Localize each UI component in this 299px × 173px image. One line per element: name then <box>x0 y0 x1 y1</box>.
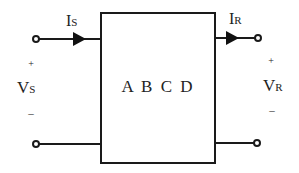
output-voltage-label: VR <box>263 76 283 95</box>
two-port-network-diagram: A B C D IS + VS – IR + VR – <box>0 0 299 173</box>
input-voltage-label: VS <box>17 78 35 97</box>
input-top-terminal <box>33 36 39 42</box>
input-current-arrow-icon <box>73 32 86 46</box>
output-port: IR + VR – <box>215 10 283 146</box>
input-bottom-terminal <box>33 141 39 147</box>
input-plus-sign: + <box>28 58 34 69</box>
output-minus-sign: – <box>268 104 275 116</box>
output-current-label: IR <box>229 10 242 27</box>
input-current-label: IS <box>66 12 77 29</box>
output-plus-sign: + <box>268 55 274 66</box>
output-top-terminal <box>255 35 261 41</box>
output-current-arrow-icon <box>226 31 239 45</box>
abcd-block: A B C D <box>101 13 215 163</box>
output-bottom-terminal <box>254 140 260 146</box>
input-port: IS + VS – <box>17 12 101 147</box>
block-label: A B C D <box>121 77 194 96</box>
input-minus-sign: – <box>27 107 34 119</box>
